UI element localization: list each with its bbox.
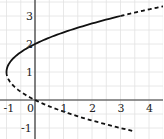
x-tick-label: 3 <box>118 102 125 115</box>
y-tick-label: -1 <box>21 122 32 135</box>
x-tick-label: -1 <box>4 102 15 115</box>
chart-container: -101234-1123 <box>0 0 163 139</box>
parabola-plot: -101234-1123 <box>0 0 163 139</box>
upper-dashed-branch <box>121 6 164 16</box>
y-tick-label: 1 <box>26 66 33 79</box>
x-tick-label: 4 <box>146 102 153 115</box>
x-tick-label: 1 <box>61 102 68 115</box>
tick-labels: -101234-1123 <box>4 10 154 135</box>
y-tick-label: 3 <box>26 10 33 23</box>
x-tick-label: 2 <box>89 102 96 115</box>
y-tick-label: 2 <box>26 38 33 51</box>
x-tick-label: 0 <box>27 102 34 115</box>
